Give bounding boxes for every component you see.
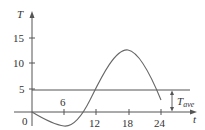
x-tick-label-12: 12 — [89, 117, 100, 129]
y-tick-label-15: 15 — [13, 32, 25, 44]
tave-arrow-down-icon — [170, 107, 174, 112]
tave-label: Tave — [177, 95, 195, 109]
x-tick-label-18: 18 — [122, 117, 134, 129]
x-tick-label-6: 6 — [60, 96, 66, 108]
chart: T t 0 6 12 18 24 5 10 15 Tave — [0, 0, 205, 130]
y-axis-label: T — [17, 8, 24, 20]
y-axis-arrow-icon — [30, 11, 35, 18]
x-axis-label: t — [193, 113, 197, 125]
y-tick-label-10: 10 — [13, 57, 25, 69]
y-tick-label-5: 5 — [19, 83, 25, 95]
tave-arrow-up-icon — [170, 91, 174, 96]
x-tick-label-24: 24 — [154, 117, 166, 129]
origin-label: 0 — [22, 115, 28, 127]
